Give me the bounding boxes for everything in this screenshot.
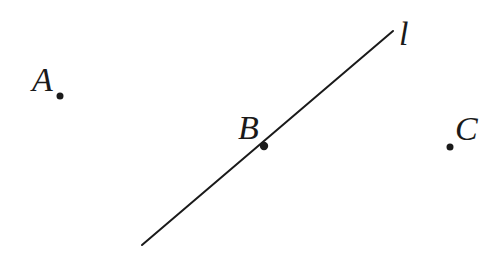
point-b-label: B	[238, 111, 259, 145]
line-l-label: l	[399, 17, 408, 51]
point-a-label: A	[32, 63, 53, 97]
point-c-label: C	[455, 112, 478, 146]
geometry-diagram-canvas: A B C l	[0, 0, 500, 253]
line-l-group	[142, 31, 393, 245]
point-c-dot	[447, 144, 454, 151]
line-l	[142, 31, 393, 245]
point-a-dot	[57, 93, 64, 100]
point-b-dot	[260, 142, 268, 150]
